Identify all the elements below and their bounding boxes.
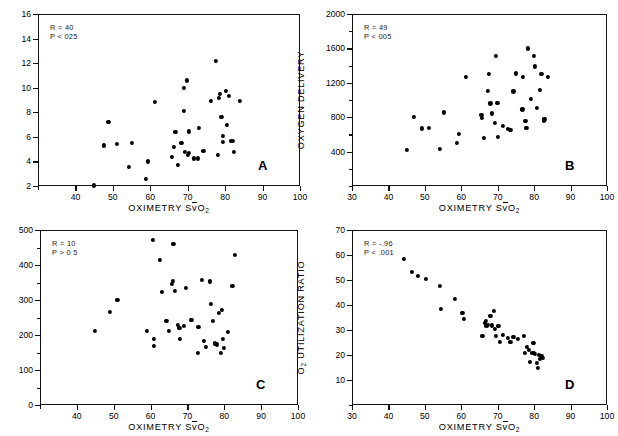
x-tick-label: 50 <box>420 411 430 421</box>
y-tick-label: 500 <box>0 225 33 235</box>
x-tick-label: 80 <box>220 411 230 421</box>
x-tick <box>300 186 301 191</box>
p-value: P < .001 <box>364 248 394 257</box>
y-tick-label: 30 <box>306 325 345 335</box>
y-tick-label: 800 <box>306 112 345 122</box>
x-tick <box>40 405 41 409</box>
data-point <box>178 336 182 340</box>
data-point <box>226 329 230 333</box>
data-point <box>416 273 420 277</box>
y-tick <box>33 63 38 64</box>
data-point <box>221 134 225 138</box>
data-point <box>151 238 155 242</box>
data-point <box>497 324 501 328</box>
y-tick-label: 10 <box>306 375 345 385</box>
y-tick <box>349 134 353 135</box>
data-point <box>490 324 494 328</box>
plot-area-c <box>40 230 298 405</box>
data-point <box>497 340 501 344</box>
y-tick <box>347 14 352 15</box>
data-point <box>438 284 442 288</box>
x-tick-label: 70 <box>183 192 193 202</box>
data-point <box>216 153 220 157</box>
data-point <box>171 242 175 246</box>
data-point <box>485 88 489 92</box>
panel-a: 246810121416405060708090100R = 40P < 025… <box>0 0 618 436</box>
data-point <box>496 134 500 138</box>
data-point <box>220 308 224 312</box>
p-value: P < 025 <box>50 32 78 41</box>
x-tick <box>461 186 462 191</box>
data-point <box>523 350 527 354</box>
data-point <box>488 314 492 318</box>
data-point <box>535 106 539 110</box>
data-point <box>200 278 204 282</box>
data-point <box>486 322 490 326</box>
x-tick <box>114 405 115 410</box>
y-tick-label: 60 <box>306 250 345 260</box>
data-point <box>184 78 188 82</box>
x-tick <box>607 186 608 191</box>
p-value: P < 005 <box>364 32 392 41</box>
data-point <box>215 342 219 346</box>
x-tick-label: 80 <box>220 192 230 202</box>
data-point <box>231 139 235 143</box>
x-tick-label: 50 <box>108 192 118 202</box>
y-tick-label: 2 <box>0 181 31 191</box>
x-tick <box>534 186 535 191</box>
data-point <box>145 329 149 333</box>
data-point <box>170 282 174 286</box>
data-point <box>539 354 543 358</box>
data-point <box>480 116 484 120</box>
data-point <box>501 333 505 337</box>
stats-annotation: R = 49P < 005 <box>364 23 392 42</box>
x-tick-label: 70 <box>183 411 193 421</box>
data-point <box>158 258 162 262</box>
x-tick <box>571 405 572 410</box>
data-point <box>219 115 223 119</box>
data-point <box>426 126 430 130</box>
data-point <box>453 297 457 301</box>
y-tick-label: 14 <box>0 34 31 44</box>
data-point <box>101 143 105 147</box>
y-tick-label: 40 <box>306 300 345 310</box>
y-tick-label: 2000 <box>306 9 345 19</box>
data-point <box>494 54 498 58</box>
y-tick <box>347 305 352 306</box>
data-point <box>536 366 540 370</box>
data-point <box>108 309 112 313</box>
x-tick <box>77 405 78 410</box>
data-point <box>410 270 414 274</box>
data-point <box>464 75 468 79</box>
y-tick <box>35 335 40 336</box>
data-point <box>93 329 97 333</box>
y-tick-label: 100 <box>0 365 33 375</box>
panel-letter-c: C <box>256 377 265 392</box>
data-point <box>402 257 406 261</box>
data-point <box>539 72 543 76</box>
data-point <box>214 59 218 63</box>
data-point <box>144 177 148 181</box>
y-tick <box>35 300 40 301</box>
y-tick <box>37 353 41 354</box>
data-point <box>230 284 234 288</box>
x-tick-label: 30 <box>347 411 357 421</box>
data-point <box>462 317 466 321</box>
data-point <box>525 345 529 349</box>
data-point <box>201 149 205 153</box>
data-point <box>535 361 539 365</box>
data-point <box>172 289 176 293</box>
x-tick-label: 30 <box>347 192 357 202</box>
x-tick <box>352 405 353 410</box>
data-point <box>488 101 492 105</box>
data-point <box>227 94 231 98</box>
stats-annotation: R = 40P < 025 <box>50 23 78 42</box>
data-point <box>183 286 187 290</box>
data-point <box>533 64 537 68</box>
y-tick <box>347 152 352 153</box>
panel-letter-b: B <box>565 158 574 173</box>
data-point <box>506 127 510 131</box>
y-tick <box>347 230 352 231</box>
data-point <box>196 325 200 329</box>
data-point <box>540 356 544 360</box>
